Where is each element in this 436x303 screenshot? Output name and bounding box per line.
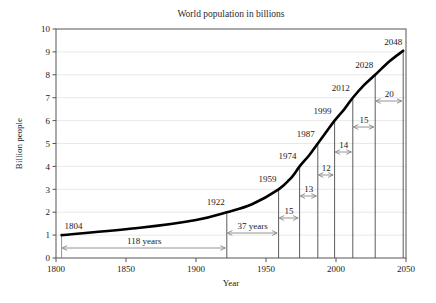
milestone-label: 1974	[279, 151, 298, 161]
y-axis-tick-label: 4	[46, 162, 51, 172]
milestone-label: 1987	[297, 129, 316, 139]
x-axis-tick-label: 2000	[327, 264, 346, 274]
interval-label: 20	[385, 89, 395, 99]
y-axis-label: Billion people	[14, 118, 24, 169]
chart-title: World population in billions	[177, 9, 284, 19]
y-axis-tick-label: 2	[46, 207, 51, 217]
x-axis-tick-label: 2050	[397, 264, 416, 274]
x-axis-tick-label: 1800	[47, 264, 66, 274]
x-axis-tick-label: 1950	[257, 264, 276, 274]
population-curve	[62, 51, 404, 235]
y-axis-tick-label: 6	[46, 116, 51, 126]
x-axis-tick-label: 1900	[187, 264, 206, 274]
interval-label: 12	[322, 163, 331, 173]
interval-label: 37 years	[238, 221, 269, 231]
y-axis-tick-label: 9	[46, 47, 51, 57]
interval-label: 14	[339, 140, 349, 150]
y-axis-tick-label: 1	[46, 230, 51, 240]
y-axis-tick-label: 7	[46, 93, 51, 103]
milestone-label: 2048	[384, 37, 403, 47]
y-axis-tick-label: 10	[41, 24, 51, 34]
world-population-chart: World population in billions012345678910…	[0, 0, 436, 303]
y-axis-tick-label: 8	[46, 70, 51, 80]
milestone-label: 2012	[332, 83, 350, 93]
y-axis-tick-label: 0	[46, 253, 51, 263]
milestone-label: 1999	[314, 106, 333, 116]
x-axis-label: Year	[223, 278, 240, 288]
interval-label: 15	[360, 115, 370, 125]
interval-label: 15	[285, 206, 295, 216]
milestone-label: 1804	[65, 221, 84, 231]
y-axis-tick-label: 3	[46, 185, 51, 195]
milestone-label: 1922	[207, 197, 225, 207]
y-axis-tick-label: 5	[46, 139, 51, 149]
milestone-label: 2028	[355, 60, 374, 70]
chart-container: World population in billions012345678910…	[0, 0, 436, 303]
milestone-label: 1959	[259, 174, 278, 184]
x-axis-tick-label: 1850	[117, 264, 136, 274]
interval-label: 118 years	[127, 236, 162, 246]
interval-label: 13	[304, 184, 314, 194]
